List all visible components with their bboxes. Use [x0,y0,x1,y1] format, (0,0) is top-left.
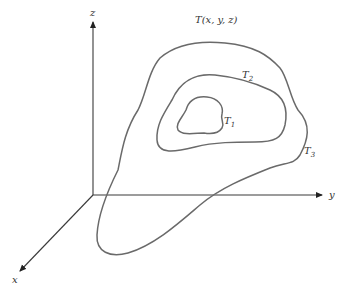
contour-t3 [97,42,307,255]
function-label: T(x, y, z) [195,14,238,25]
x-axis-label: x [12,274,18,285]
svg-text:T3: T3 [304,145,316,159]
svg-text:T1: T1 [224,115,235,129]
contour-label-t1: T1 [224,115,235,129]
y-axis-label: y [328,189,335,200]
z-axis-label: z [89,7,96,18]
axes [20,22,322,271]
x-axis [20,195,93,271]
contour-t1 [177,97,223,134]
isotherm-diagram: z y x T(x, y, z) T1 T2 T3 [0,0,345,291]
contour-label-t3: T3 [304,145,316,159]
